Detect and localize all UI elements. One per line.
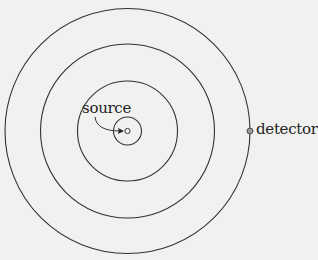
detector-label: detector <box>256 122 318 137</box>
detector-icon <box>247 128 253 134</box>
source-pointer-arrow <box>95 117 120 131</box>
arrowhead-icon <box>118 128 124 134</box>
source-label: source <box>82 101 131 116</box>
source-point-icon <box>125 128 130 133</box>
